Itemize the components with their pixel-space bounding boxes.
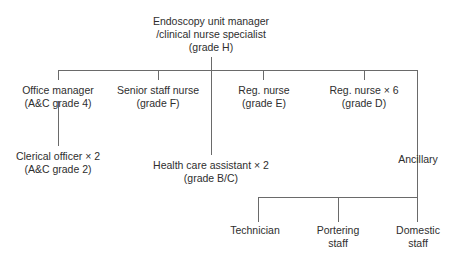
node-clerical-officer: Clerical officer × 2 (A&C grade 2) bbox=[16, 150, 100, 176]
node-domestic-staff: Domestic staff bbox=[396, 224, 440, 250]
node-title: Health care assistant × 2 bbox=[153, 159, 269, 172]
node-title-line2: staff bbox=[396, 237, 440, 250]
node-title: Senior staff nurse bbox=[117, 84, 199, 97]
connector-domestic-staff bbox=[417, 197, 418, 222]
node-title: Domestic bbox=[396, 224, 440, 237]
connector-technician bbox=[258, 197, 259, 222]
node-title: Reg. nurse × 6 bbox=[329, 84, 398, 97]
node-office-manager: Office manager (A&C grade 4) bbox=[22, 84, 94, 110]
node-grade: (grade H) bbox=[153, 41, 269, 54]
node-grade: (grade E) bbox=[238, 97, 289, 110]
node-title: Technician bbox=[230, 224, 280, 237]
node-technician: Technician bbox=[230, 224, 280, 237]
node-title: Office manager bbox=[22, 84, 94, 97]
connector-reg-nurse-e bbox=[263, 70, 264, 80]
node-title: Clerical officer × 2 bbox=[16, 150, 100, 163]
node-grade: (A&C grade 2) bbox=[16, 163, 100, 176]
connector-reg-nurse-d bbox=[364, 70, 365, 80]
node-portering-staff: Portering staff bbox=[317, 224, 360, 250]
connector-office-manager bbox=[58, 70, 59, 80]
node-grade: (grade F) bbox=[117, 97, 199, 110]
node-title: Endoscopy unit manager bbox=[153, 15, 269, 28]
org-chart: Endoscopy unit manager /clinical nurse s… bbox=[0, 0, 457, 261]
node-grade: (grade D) bbox=[329, 97, 398, 110]
node-grade: (grade B/C) bbox=[153, 172, 269, 185]
node-title-line2: staff bbox=[317, 237, 360, 250]
connector-ancillary bbox=[417, 70, 418, 197]
node-endoscopy-unit-manager: Endoscopy unit manager /clinical nurse s… bbox=[153, 15, 269, 54]
node-reg-nurse-d: Reg. nurse × 6 (grade D) bbox=[329, 84, 398, 110]
connector-senior-staff-nurse bbox=[158, 70, 159, 80]
node-health-care-assistant: Health care assistant × 2 (grade B/C) bbox=[153, 159, 269, 185]
node-subtitle: /clinical nurse specialist bbox=[153, 28, 269, 41]
node-senior-staff-nurse: Senior staff nurse (grade F) bbox=[117, 84, 199, 110]
connector-root-down bbox=[211, 57, 212, 70]
node-title: Ancillary bbox=[398, 153, 438, 166]
node-grade: (A&C grade 4) bbox=[22, 97, 94, 110]
node-reg-nurse-e: Reg. nurse (grade E) bbox=[238, 84, 289, 110]
connector-health-care-assistant bbox=[211, 70, 212, 155]
node-title: Reg. nurse bbox=[238, 84, 289, 97]
node-title: Portering bbox=[317, 224, 360, 237]
node-ancillary: Ancillary bbox=[398, 153, 438, 166]
connector-portering-staff bbox=[338, 197, 339, 222]
